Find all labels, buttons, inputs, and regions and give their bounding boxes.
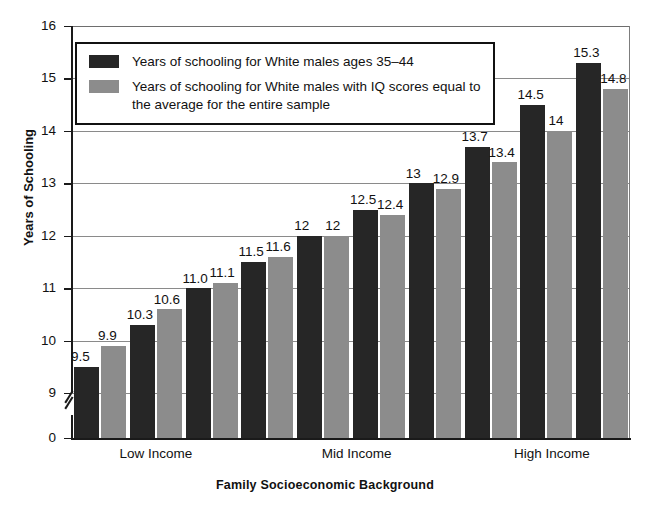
bar-series-2	[268, 257, 293, 438]
y-tick-label-0: 0	[30, 431, 56, 445]
bar-value-label-series-1: 14.5	[517, 88, 543, 102]
bar-value-label-series-2: 12.4	[377, 198, 403, 212]
bar-value-label-series-1: 11.0	[183, 272, 208, 286]
x-axis-line	[71, 438, 631, 440]
y-axis-title: Years of Schooling	[21, 108, 36, 268]
bar-value-label-series-1: 9.5	[71, 350, 90, 364]
bar-series-2	[213, 283, 238, 438]
y-tick-label-10: 10	[30, 334, 56, 348]
bar-value-label-series-1: 13	[406, 167, 421, 181]
bar-group: 15.314.8	[576, 26, 628, 438]
bar-series-1	[520, 105, 545, 438]
bar-value-label-series-1: 15.3	[573, 46, 599, 60]
bar-series-2	[101, 346, 126, 438]
bar-series-1	[353, 210, 378, 439]
legend-swatch-gray-icon	[89, 80, 119, 93]
legend-swatch-dark-icon	[89, 55, 119, 68]
bar-value-label-series-2: 14	[548, 114, 563, 128]
legend-label-series-1: Years of schooling for White males ages …	[132, 53, 414, 70]
bar-chart: 0910111213141516 9.59.910.310.611.011.11…	[0, 0, 650, 506]
bar-series-1	[74, 367, 99, 438]
bar-value-label-series-2: 13.4	[489, 146, 515, 160]
bar-series-2	[380, 215, 405, 438]
group-label-low-income: Low Income	[96, 446, 216, 461]
legend-entry-series-2: Years of schooling for White males with …	[89, 78, 481, 113]
legend-entry-series-1: Years of schooling for White males ages …	[89, 53, 481, 70]
bar-value-label-series-1: 10.3	[127, 308, 153, 322]
y-tick-label-16: 16	[30, 19, 56, 33]
bar-group: 14.514	[520, 26, 572, 438]
bar-value-label-series-1: 11.5	[238, 245, 263, 259]
bar-series-2	[324, 236, 349, 438]
legend-label-series-2: Years of schooling for White males with …	[132, 78, 481, 113]
bar-value-label-series-2: 11.1	[210, 266, 235, 280]
bar-value-label-series-2: 14.8	[600, 72, 626, 86]
bar-value-label-series-2: 9.9	[98, 329, 117, 343]
bar-series-2	[492, 162, 517, 438]
y-tick-label-11: 11	[30, 281, 56, 295]
bar-series-1	[409, 183, 434, 438]
group-label-mid-income: Mid Income	[297, 446, 417, 461]
bar-value-label-series-1: 13.7	[462, 130, 488, 144]
y-tick-label-15: 15	[30, 71, 56, 85]
bar-value-label-series-2: 12.9	[433, 172, 459, 186]
bar-value-label-series-2: 10.6	[154, 293, 180, 307]
y-tick-label-9: 9	[30, 386, 56, 400]
group-label-high-income: High Income	[492, 446, 612, 461]
bar-value-label-series-2: 12	[325, 219, 340, 233]
bar-series-1	[186, 288, 211, 438]
bar-series-1	[465, 147, 490, 438]
bar-value-label-series-2: 11.6	[265, 240, 290, 254]
bar-series-2	[436, 189, 461, 438]
bar-series-1	[297, 236, 322, 438]
bar-series-2	[547, 131, 572, 438]
bar-series-1	[576, 63, 601, 438]
legend: Years of schooling for White males ages …	[75, 42, 495, 125]
bar-value-label-series-1: 12	[294, 219, 309, 233]
bar-series-1	[130, 325, 155, 438]
bar-value-label-series-1: 12.5	[350, 193, 376, 207]
bar-series-1	[241, 262, 266, 438]
x-axis-title: Family Socioeconomic Background	[0, 478, 650, 492]
bar-series-2	[603, 89, 628, 438]
bar-series-2	[157, 309, 182, 438]
